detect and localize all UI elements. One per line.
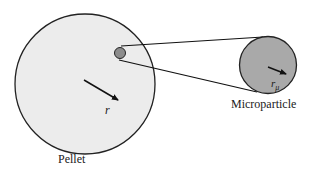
- inset-particle-circle: [115, 48, 126, 59]
- microparticle-circle: [240, 37, 297, 94]
- pellet-radius-label: r: [105, 103, 110, 118]
- zoom-line-top: [121, 37, 263, 46]
- pellet-label: Pellet: [58, 152, 85, 167]
- microparticle-radius-label: rμ: [271, 77, 279, 92]
- microparticle-label: Microparticle: [231, 97, 296, 112]
- pellet-circle: [15, 14, 155, 154]
- pellet-microparticle-diagram: [0, 0, 311, 174]
